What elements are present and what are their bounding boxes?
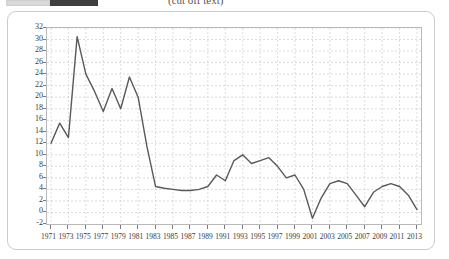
x-axis-tick	[346, 225, 347, 229]
y-axis-tick-label: 26	[35, 58, 43, 66]
x-axis-tick	[120, 225, 121, 229]
y-axis-tick-label: 30	[35, 35, 43, 43]
data-series-line	[51, 37, 417, 219]
y-axis-labels: 32302826242220181614121086420-2	[8, 12, 43, 251]
x-axis-tick-label: 2003	[320, 233, 335, 241]
x-axis-tick-label: 1973	[58, 233, 73, 241]
x-axis-tick	[172, 225, 173, 229]
x-axis-tick	[50, 225, 51, 229]
x-axis-tick	[67, 225, 68, 229]
header-swatch-light	[6, 0, 50, 6]
y-axis-tick-label: -2	[36, 219, 43, 227]
header-caption: (cut off text)	[168, 0, 223, 6]
x-axis-tick-label: 1995	[250, 233, 265, 241]
y-axis-tick-label: 32	[35, 23, 43, 31]
y-axis-tick-label: 14	[35, 127, 43, 135]
x-axis-tick	[294, 225, 295, 229]
header-swatch-dark	[50, 0, 98, 6]
x-axis-tick	[242, 225, 243, 229]
x-axis-tick-label: 2011	[390, 233, 405, 241]
x-axis-tick-label: 1987	[180, 233, 195, 241]
x-axis-tick	[189, 225, 190, 229]
x-axis-tick	[207, 225, 208, 229]
x-axis-tick-label: 1993	[233, 233, 248, 241]
x-axis-tick-label: 1979	[111, 233, 126, 241]
x-axis-tick-label: 1985	[163, 233, 178, 241]
x-axis-tick-label: 2007	[355, 233, 370, 241]
y-axis-tick-label: 24	[35, 69, 43, 77]
x-axis-tick	[102, 225, 103, 229]
x-axis-tick-label: 1977	[93, 233, 108, 241]
x-axis-tick-label: 2009	[372, 233, 387, 241]
x-axis-tick	[224, 225, 225, 229]
x-axis-tick	[311, 225, 312, 229]
y-axis-tick-label: 20	[35, 92, 43, 100]
x-axis-tick	[137, 225, 138, 229]
y-axis-tick-label: 10	[35, 150, 43, 158]
x-axis-tick	[329, 225, 330, 229]
x-axis-tick-label: 1991	[215, 233, 230, 241]
vertical-gridlines	[51, 28, 417, 224]
x-axis-tick	[85, 225, 86, 229]
line-chart-svg	[47, 28, 421, 224]
x-axis-tick	[259, 225, 260, 229]
y-axis-tick-label: 28	[35, 46, 43, 54]
x-axis-tick-label: 2001	[302, 233, 317, 241]
x-axis-tick-label: 1999	[285, 233, 300, 241]
x-axis-tick-label: 2013	[407, 233, 422, 241]
x-axis-tick	[277, 225, 278, 229]
y-axis-tick-label: 18	[35, 104, 43, 112]
x-axis-tick-label: 1971	[41, 233, 56, 241]
x-axis-tick-label: 1975	[76, 233, 91, 241]
x-axis-tick-label: 1989	[198, 233, 213, 241]
x-axis-tick	[381, 225, 382, 229]
y-axis-tick-label: 16	[35, 115, 43, 123]
top-cropped-header: (cut off text)	[0, 0, 449, 9]
x-axis-labels: 1971197319751977197919811983198519871989…	[8, 228, 436, 250]
y-axis-tick-label: 22	[35, 81, 43, 89]
x-axis-tick-label: 1997	[268, 233, 283, 241]
x-axis-tick	[364, 225, 365, 229]
y-axis-tick-label: 12	[35, 138, 43, 146]
chart-card: 32302826242220181614121086420-2 19711973…	[7, 11, 435, 250]
x-axis-tick-label: 1983	[146, 233, 161, 241]
x-axis-tick-label: 2005	[337, 233, 352, 241]
x-axis-tick	[399, 225, 400, 229]
plot-area	[46, 27, 422, 225]
x-axis-tick	[416, 225, 417, 229]
x-axis-tick	[155, 225, 156, 229]
x-axis-tick-label: 1981	[128, 233, 143, 241]
